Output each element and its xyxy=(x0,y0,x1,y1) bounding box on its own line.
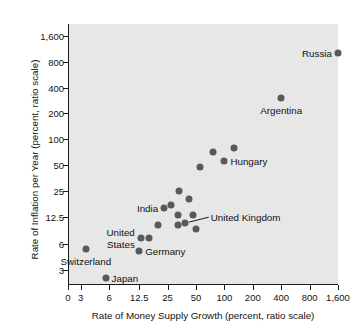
data-point xyxy=(196,163,203,170)
data-label-united-kingdom: United Kingdom xyxy=(211,212,281,223)
x-axis-tick-label: 3 xyxy=(78,292,83,303)
data-label-hungary: Hungary xyxy=(230,156,267,167)
data-label-russia: Russia xyxy=(302,48,332,59)
x-axis-tick xyxy=(224,285,225,290)
x-axis-tick-label: 25 xyxy=(162,292,173,303)
y-axis-tick-label: 50 xyxy=(53,160,64,171)
data-point xyxy=(185,196,192,203)
x-axis-tick-label: 0 xyxy=(65,292,70,303)
x-axis-tick xyxy=(253,285,254,290)
x-axis-tick-label: 6 xyxy=(106,292,111,303)
data-point-hungary xyxy=(221,158,228,165)
data-point-japan xyxy=(102,275,109,282)
x-axis-tick-label: 100 xyxy=(216,292,232,303)
data-point xyxy=(189,212,196,219)
data-point-switzerland xyxy=(82,246,89,253)
y-axis-tick-label: 12.5 xyxy=(46,211,65,222)
x-axis-tick xyxy=(281,285,282,290)
data-point xyxy=(174,222,181,229)
data-point xyxy=(209,149,216,156)
data-point-russia xyxy=(335,50,342,57)
x-axis-tick xyxy=(81,285,82,290)
x-axis-tick xyxy=(68,285,69,290)
y-axis-tick-label: 800 xyxy=(48,56,64,67)
data-point xyxy=(174,212,181,219)
y-axis-tick-label: 6 xyxy=(59,239,64,250)
x-axis-tick xyxy=(109,285,110,290)
x-axis-tick-label: 800 xyxy=(302,292,318,303)
x-axis-tick xyxy=(139,285,140,290)
x-axis-title: Rate of Money Supply Growth (percent, ra… xyxy=(68,310,338,321)
x-axis-tick xyxy=(310,285,311,290)
x-axis-tick-label: 50 xyxy=(191,292,202,303)
y-axis-tick-label: 100 xyxy=(48,134,64,145)
data-point xyxy=(230,144,237,151)
data-point-argentina xyxy=(278,95,285,102)
data-point xyxy=(175,187,182,194)
data-point-united-kingdom xyxy=(181,220,188,227)
y-axis-tick-label: 200 xyxy=(48,108,64,119)
data-point-united-states xyxy=(137,235,144,242)
x-axis-tick-label: 400 xyxy=(273,292,289,303)
y-axis-tick-label: 25 xyxy=(53,185,64,196)
data-point xyxy=(146,235,153,242)
y-axis-title: Rate of Inflation per Year (percent, rat… xyxy=(29,50,40,270)
data-point xyxy=(192,225,199,232)
x-axis-tick xyxy=(196,285,197,290)
data-label-switzerland: Switzerland xyxy=(61,256,112,267)
data-label-india: India xyxy=(137,202,158,213)
y-axis-tick-label: 1,600 xyxy=(40,30,64,41)
data-point xyxy=(167,202,174,209)
x-axis-tick-label: 1,600 xyxy=(326,292,350,303)
x-axis-tick-label: 12.5 xyxy=(130,292,149,303)
data-label-united-states: UnitedStates xyxy=(106,227,134,251)
x-axis-tick-label: 200 xyxy=(245,292,261,303)
x-axis-tick xyxy=(168,285,169,290)
data-point xyxy=(155,222,162,229)
y-axis-tick-label: 400 xyxy=(48,82,64,93)
x-axis-tick xyxy=(338,285,339,290)
data-label-germany: Germany xyxy=(145,245,185,256)
inflation-money-growth-scatter-chart: 3612.525501002004008001,60003612.5255010… xyxy=(0,0,356,333)
data-label-argentina: Argentina xyxy=(260,105,302,116)
data-label-japan: Japan xyxy=(112,273,139,284)
data-point-germany xyxy=(136,247,143,254)
